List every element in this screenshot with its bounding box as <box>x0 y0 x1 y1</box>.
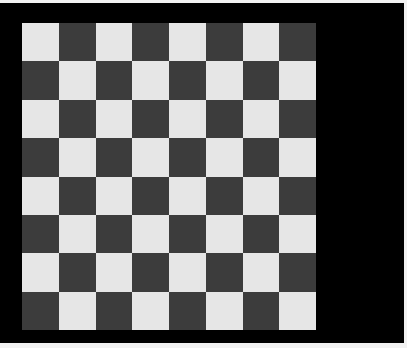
board-square-r2-c6[interactable] <box>206 61 243 99</box>
board-square-r4-c3[interactable] <box>96 138 133 176</box>
board-square-r4-c4[interactable] <box>132 138 169 176</box>
board-square-r6-c3[interactable] <box>96 215 133 253</box>
board-square-r2-c7[interactable] <box>243 61 280 99</box>
board-square-r8-c3[interactable] <box>96 292 133 330</box>
board-square-r8-c7[interactable] <box>243 292 280 330</box>
game-frame <box>0 3 404 343</box>
board-square-r2-c1[interactable] <box>22 61 59 99</box>
board-square-r4-c7[interactable] <box>243 138 280 176</box>
board-square-r1-c3[interactable] <box>96 23 133 61</box>
board-square-r1-c7[interactable] <box>243 23 280 61</box>
board-square-r6-c7[interactable] <box>243 215 280 253</box>
board-square-r1-c5[interactable] <box>169 23 206 61</box>
board-square-r6-c5[interactable] <box>169 215 206 253</box>
board-square-r3-c6[interactable] <box>206 100 243 138</box>
board-square-r7-c8[interactable] <box>279 253 316 291</box>
board-square-r8-c4[interactable] <box>132 292 169 330</box>
board-square-r6-c2[interactable] <box>59 215 96 253</box>
board-square-r6-c1[interactable] <box>22 215 59 253</box>
board-square-r5-c7[interactable] <box>243 177 280 215</box>
board-square-r3-c2[interactable] <box>59 100 96 138</box>
board-square-r8-c8[interactable] <box>279 292 316 330</box>
board-square-r5-c3[interactable] <box>96 177 133 215</box>
board-square-r4-c8[interactable] <box>279 138 316 176</box>
board-square-r7-c2[interactable] <box>59 253 96 291</box>
checkerboard[interactable] <box>22 23 316 330</box>
board-square-r3-c8[interactable] <box>279 100 316 138</box>
board-square-r3-c4[interactable] <box>132 100 169 138</box>
board-square-r5-c2[interactable] <box>59 177 96 215</box>
board-square-r5-c5[interactable] <box>169 177 206 215</box>
board-square-r4-c1[interactable] <box>22 138 59 176</box>
side-panel <box>316 3 404 343</box>
board-square-r2-c4[interactable] <box>132 61 169 99</box>
board-square-r3-c1[interactable] <box>22 100 59 138</box>
board-square-r7-c7[interactable] <box>243 253 280 291</box>
board-square-r5-c8[interactable] <box>279 177 316 215</box>
board-square-r8-c6[interactable] <box>206 292 243 330</box>
board-square-r2-c3[interactable] <box>96 61 133 99</box>
board-square-r3-c3[interactable] <box>96 100 133 138</box>
board-square-r8-c5[interactable] <box>169 292 206 330</box>
board-square-r8-c1[interactable] <box>22 292 59 330</box>
board-square-r7-c3[interactable] <box>96 253 133 291</box>
board-square-r1-c8[interactable] <box>279 23 316 61</box>
board-square-r1-c2[interactable] <box>59 23 96 61</box>
board-square-r1-c1[interactable] <box>22 23 59 61</box>
board-square-r5-c1[interactable] <box>22 177 59 215</box>
board-square-r3-c7[interactable] <box>243 100 280 138</box>
board-square-r7-c1[interactable] <box>22 253 59 291</box>
board-square-r5-c6[interactable] <box>206 177 243 215</box>
board-square-r7-c6[interactable] <box>206 253 243 291</box>
board-square-r1-c6[interactable] <box>206 23 243 61</box>
board-square-r2-c5[interactable] <box>169 61 206 99</box>
board-square-r6-c6[interactable] <box>206 215 243 253</box>
board-square-r4-c2[interactable] <box>59 138 96 176</box>
board-square-r8-c2[interactable] <box>59 292 96 330</box>
board-square-r6-c8[interactable] <box>279 215 316 253</box>
board-square-r1-c4[interactable] <box>132 23 169 61</box>
board-square-r6-c4[interactable] <box>132 215 169 253</box>
board-square-r5-c4[interactable] <box>132 177 169 215</box>
board-square-r2-c8[interactable] <box>279 61 316 99</box>
board-square-r4-c6[interactable] <box>206 138 243 176</box>
board-square-r4-c5[interactable] <box>169 138 206 176</box>
board-square-r2-c2[interactable] <box>59 61 96 99</box>
board-square-r3-c5[interactable] <box>169 100 206 138</box>
board-square-r7-c5[interactable] <box>169 253 206 291</box>
board-square-r7-c4[interactable] <box>132 253 169 291</box>
